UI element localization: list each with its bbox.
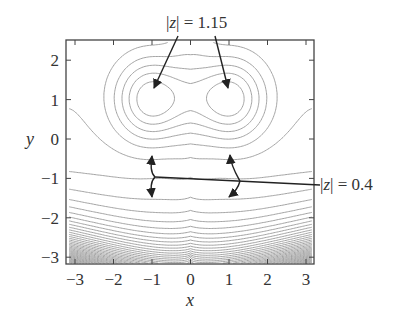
x-tick-label: 2 bbox=[263, 270, 272, 289]
x-tick-labels: −3−2−10123 bbox=[66, 270, 310, 289]
y-tick-labels: −3−2−1012 bbox=[41, 51, 59, 267]
contour-figure: −3−2−10123 −3−2−1012 x y |z| = 1.15 |z| … bbox=[0, 0, 403, 332]
arrow-right-saddle-down bbox=[229, 181, 240, 197]
contour-lines bbox=[69, 43, 312, 264]
arrow-right-max bbox=[215, 36, 228, 88]
x-tick-label: 1 bbox=[225, 270, 234, 289]
y-tick-label: 1 bbox=[51, 91, 60, 110]
annotation-right: |z| = 0.4 bbox=[320, 175, 373, 194]
annotation-top: |z| = 1.15 bbox=[166, 13, 227, 32]
axis-ticks bbox=[66, 40, 314, 264]
y-axis-label: y bbox=[24, 129, 34, 149]
y-tick-label: 2 bbox=[51, 51, 60, 70]
arrow-left-saddle-down bbox=[151, 177, 155, 197]
contour-path bbox=[69, 43, 312, 264]
plot-frame bbox=[66, 40, 314, 264]
y-tick-label: −2 bbox=[41, 209, 59, 228]
y-tick-label: −3 bbox=[41, 248, 59, 267]
arrow-left-max bbox=[154, 36, 178, 88]
x-tick-label: 0 bbox=[186, 270, 195, 289]
y-tick-label: −1 bbox=[41, 169, 59, 188]
x-tick-label: 3 bbox=[302, 270, 311, 289]
x-axis-label: x bbox=[185, 290, 194, 310]
x-tick-label: −3 bbox=[66, 270, 84, 289]
x-tick-label: −1 bbox=[143, 270, 161, 289]
y-tick-label: 0 bbox=[51, 130, 60, 149]
x-tick-label: −2 bbox=[104, 270, 122, 289]
leader-line-saddles bbox=[155, 177, 320, 185]
